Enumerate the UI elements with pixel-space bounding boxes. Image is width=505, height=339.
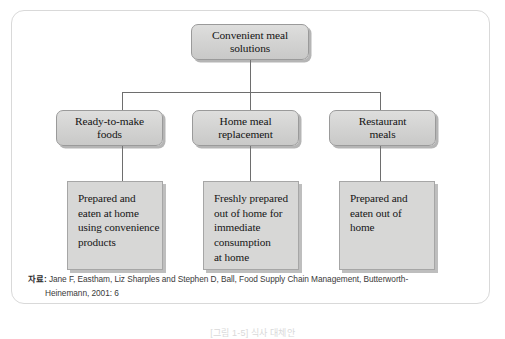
node-ready-to-make-foods-label: Ready-to-make foods: [71, 115, 148, 141]
node-home-meal-replacement: Home meal replacement: [192, 110, 299, 146]
figure-frame: Convenient meal solutions Ready-to-make …: [11, 10, 490, 304]
source-citation-line-2: Heinemann, 2001: 6: [28, 287, 480, 301]
node-root-label: Convenient meal solutions: [208, 29, 292, 55]
org-chart-diagram: Convenient meal solutions Ready-to-make …: [12, 11, 491, 305]
node-restaurant-meals-label: Restaurant meals: [355, 115, 411, 141]
figure-caption: [그림 1-5] 식사 대체안: [0, 327, 505, 339]
node-ready-to-make-foods: Ready-to-make foods: [56, 110, 163, 146]
node-restaurant-meals: Restaurant meals: [329, 110, 436, 146]
node-home-meal-replacement-label: Home meal replacement: [214, 115, 277, 141]
node-convenient-meal-solutions: Convenient meal solutions: [191, 24, 309, 60]
source-citation-line-1: Jane F, Eastham, Liz Sharples and Stephe…: [49, 274, 408, 284]
source-label: 자료:: [28, 274, 47, 284]
description-home-meal-replacement: Freshly prepared out of home for immedia…: [203, 181, 299, 270]
description-ready-to-make-foods: Prepared and eaten at home using conveni…: [67, 181, 163, 270]
source-citation: 자료: Jane F, Eastham, Liz Sharples and St…: [28, 273, 480, 300]
description-restaurant-meals: Prepared and eaten out of home: [339, 181, 435, 270]
